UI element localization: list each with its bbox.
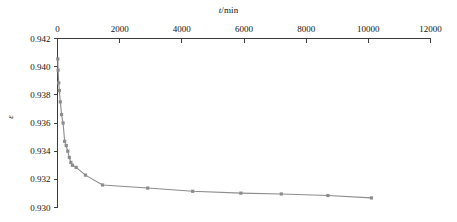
axes-group bbox=[54, 39, 431, 208]
data-point-marker bbox=[56, 57, 59, 60]
data-point-marker bbox=[101, 183, 104, 186]
data-point-marker bbox=[69, 161, 72, 164]
data-point-marker bbox=[58, 89, 61, 92]
data-point-marker bbox=[75, 166, 78, 169]
data-point-marker bbox=[370, 196, 373, 199]
x-tick-marks bbox=[58, 39, 431, 43]
data-point-marker bbox=[84, 174, 87, 177]
y-tick-marks bbox=[54, 39, 58, 208]
plot-area bbox=[0, 0, 457, 222]
data-point-marker bbox=[326, 194, 329, 197]
data-point-marker bbox=[146, 186, 149, 189]
data-point-marker bbox=[59, 100, 62, 103]
data-point-marker bbox=[63, 140, 66, 143]
data-point-marker bbox=[71, 164, 74, 167]
chart-figure: t/min ε 020004000600080001000012000 0.93… bbox=[0, 0, 457, 222]
data-point-marker bbox=[66, 150, 69, 153]
data-point-marker bbox=[61, 121, 64, 124]
series-line bbox=[58, 59, 372, 198]
data-point-marker bbox=[191, 190, 194, 193]
data-point-marker bbox=[57, 81, 60, 84]
data-point-marker bbox=[57, 69, 60, 72]
data-point-marker bbox=[280, 192, 283, 195]
series-markers bbox=[56, 57, 373, 199]
data-point-marker bbox=[65, 144, 68, 147]
data-point-marker bbox=[239, 192, 242, 195]
data-point-marker bbox=[68, 156, 71, 159]
data-series-group bbox=[56, 57, 373, 199]
data-point-marker bbox=[60, 113, 63, 116]
